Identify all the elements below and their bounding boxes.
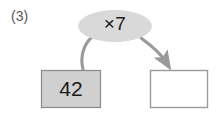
diagram-canvas: (3) ×7 42 xyxy=(0,0,222,122)
function-machine-diagram xyxy=(0,0,222,122)
output-box[interactable] xyxy=(151,71,208,108)
connector-bubble-to-output xyxy=(141,38,166,62)
operator-bubble xyxy=(78,10,152,42)
input-box[interactable] xyxy=(42,71,101,108)
connector-input-to-bubble xyxy=(82,37,92,69)
